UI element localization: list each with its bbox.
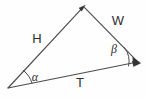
side-label-w: W: [112, 13, 125, 28]
diagram-canvas: H W T α β: [0, 0, 146, 98]
side-label-h: H: [32, 31, 41, 46]
angle-label-alpha: α: [32, 70, 39, 84]
triangle-diagram: H W T α β: [0, 0, 146, 98]
angle-label-beta: β: [110, 42, 117, 56]
side-label-t: T: [76, 75, 84, 90]
edge-t-line: [8, 62, 136, 88]
edge-h-line: [8, 8, 82, 88]
angle-alpha-arc: [23, 70, 32, 83]
